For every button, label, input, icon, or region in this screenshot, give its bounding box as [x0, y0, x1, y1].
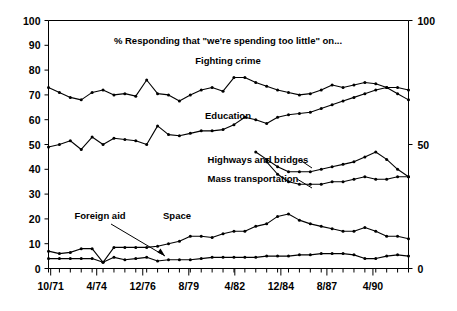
data-point [222, 232, 225, 235]
y-tick-label-right: 0 [418, 263, 424, 275]
data-point [232, 230, 235, 233]
data-point [69, 139, 72, 142]
data-point [276, 215, 279, 218]
series-label-foreign-aid: Foreign aid [74, 210, 125, 221]
data-point [232, 256, 235, 259]
data-point [243, 76, 246, 79]
data-point [352, 253, 355, 256]
data-point [189, 132, 192, 135]
series-label-education: Education [205, 110, 251, 121]
data-point [298, 112, 301, 115]
data-point [342, 252, 345, 255]
data-point [80, 148, 83, 151]
data-point [58, 252, 61, 255]
data-point [145, 143, 148, 146]
data-point [320, 183, 323, 186]
y-tick-label-left: 20 [29, 213, 41, 225]
data-point [276, 88, 279, 91]
data-point [309, 222, 312, 225]
data-point [102, 261, 105, 264]
y-tick-label-left: 10 [29, 238, 41, 250]
data-point [352, 83, 355, 86]
data-point [385, 86, 388, 89]
data-point [309, 183, 312, 186]
data-point [342, 180, 345, 183]
data-point [320, 107, 323, 110]
data-point [309, 92, 312, 95]
data-point [374, 88, 377, 91]
chart-title: % Responding that "we're spending too li… [114, 35, 342, 46]
data-point [211, 129, 214, 132]
y-tick-label-left: 90 [29, 39, 41, 51]
data-point [342, 230, 345, 233]
x-tick-label: 12/76 [130, 280, 156, 292]
data-point [407, 237, 410, 240]
data-point [276, 165, 279, 168]
data-point [47, 257, 50, 260]
data-point [232, 76, 235, 79]
data-point [374, 178, 377, 181]
data-point [254, 81, 257, 84]
data-point [352, 96, 355, 99]
x-axis-ticks: 10/714/7412/768/794/8212/848/874/90 [38, 269, 409, 292]
data-point [222, 256, 225, 259]
data-point [396, 92, 399, 95]
y-tick-label-left: 40 [29, 163, 41, 175]
data-point [254, 150, 257, 153]
data-point [287, 91, 290, 94]
data-point [91, 91, 94, 94]
data-point [47, 250, 50, 253]
data-point [320, 252, 323, 255]
data-point [243, 230, 246, 233]
data-point [47, 86, 50, 89]
data-point [331, 180, 334, 183]
data-point [145, 79, 148, 82]
data-point [102, 88, 105, 91]
series-foreign-aid [47, 252, 410, 264]
data-point [363, 155, 366, 158]
data-point [167, 93, 170, 96]
data-point [396, 253, 399, 256]
chart-container: 0102030405060708090100 050100 10/714/741… [0, 0, 457, 311]
data-point [200, 129, 203, 132]
data-point [363, 92, 366, 95]
data-point [69, 96, 72, 99]
y-tick-label-left: 80 [29, 64, 41, 76]
x-tick-label: 4/74 [86, 280, 107, 292]
data-point [69, 251, 72, 254]
data-point [352, 230, 355, 233]
data-point [123, 92, 126, 95]
data-point [396, 175, 399, 178]
data-point [331, 103, 334, 106]
data-point [243, 256, 246, 259]
data-point [91, 257, 94, 260]
data-point [352, 178, 355, 181]
data-point [254, 225, 257, 228]
data-point [134, 257, 137, 260]
data-point [374, 257, 377, 260]
data-point [123, 138, 126, 141]
line-chart: 0102030405060708090100 050100 10/714/741… [0, 0, 457, 311]
data-point [374, 230, 377, 233]
data-point [91, 247, 94, 250]
y-tick-label-left: 0 [35, 263, 41, 275]
data-point [265, 85, 268, 88]
data-point [265, 122, 268, 125]
data-point [331, 252, 334, 255]
series-label-space: Space [163, 210, 191, 221]
data-point [178, 258, 181, 261]
data-point [276, 255, 279, 258]
y-axis-right-ticks: 050100 [409, 15, 436, 275]
data-point [145, 256, 148, 259]
data-point [123, 246, 126, 249]
data-point [200, 88, 203, 91]
data-point [265, 222, 268, 225]
data-point [385, 235, 388, 238]
data-point [134, 95, 137, 98]
data-point [47, 145, 50, 148]
y-tick-label-left: 50 [29, 139, 41, 151]
data-point [189, 93, 192, 96]
data-point [222, 90, 225, 93]
data-point [363, 257, 366, 260]
data-point [232, 123, 235, 126]
